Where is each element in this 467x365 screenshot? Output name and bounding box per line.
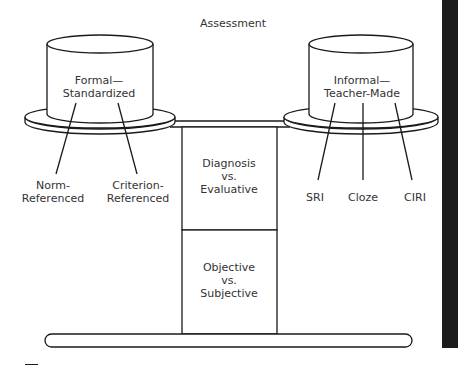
page-edge-bar <box>442 0 458 348</box>
left-branch-labels: Norm- Referenced Criterion- Referenced <box>22 179 169 205</box>
top-box-line3: Evaluative <box>200 183 258 196</box>
branch-ciri: CIRI <box>404 191 426 204</box>
right-pan-label-2: Teacher-Made <box>323 87 400 100</box>
branch-cloze: Cloze <box>348 191 378 204</box>
right-cylinder-top <box>309 35 413 53</box>
assessment-balance-diagram: Assessment Formal— Standardized Norm- Re… <box>0 0 467 365</box>
right-pan: Informal— Teacher-Made <box>284 35 438 180</box>
branch-criterion-line2: Referenced <box>107 192 169 205</box>
diagram-title: Assessment <box>200 17 267 30</box>
branch-norm-line2: Referenced <box>22 192 84 205</box>
bottom-box-line2: vs. <box>221 274 237 287</box>
right-pan-label-1: Informal— <box>334 74 391 87</box>
left-pan-label-2: Standardized <box>63 87 136 100</box>
top-box-line2: vs. <box>221 170 237 183</box>
balance-beam <box>170 121 290 127</box>
branch-sri: SRI <box>306 191 324 204</box>
left-cylinder-top <box>47 35 153 53</box>
balance-column: Diagnosis vs. Evaluative Objective vs. S… <box>182 127 277 334</box>
balance-base <box>45 334 412 347</box>
branch-norm-line1: Norm- <box>36 179 70 192</box>
left-pan: Formal— Standardized <box>25 35 175 174</box>
bottom-box-line3: Subjective <box>200 287 258 300</box>
bottom-box-line1: Objective <box>203 261 255 274</box>
left-pan-label-1: Formal— <box>75 74 124 87</box>
branch-criterion-line1: Criterion- <box>112 179 164 192</box>
right-branch-labels: SRI Cloze CIRI <box>306 191 426 204</box>
top-box-line1: Diagnosis <box>202 157 256 170</box>
